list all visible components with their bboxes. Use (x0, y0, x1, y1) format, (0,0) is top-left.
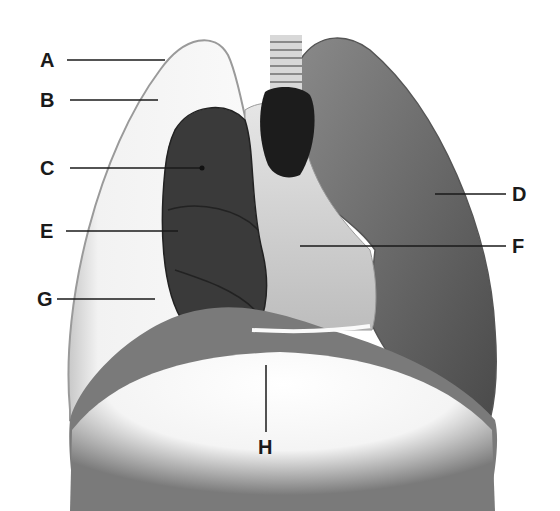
lung-anatomy-diagram (0, 0, 560, 511)
leader-c-dot (200, 166, 205, 171)
label-e: E (40, 221, 53, 241)
label-h: H (258, 437, 272, 457)
label-c: C (40, 158, 54, 178)
label-g: G (37, 289, 53, 309)
label-f: F (512, 236, 524, 256)
trachea (270, 35, 302, 95)
label-d: D (512, 184, 526, 204)
label-a: A (40, 50, 54, 70)
label-b: B (40, 90, 54, 110)
